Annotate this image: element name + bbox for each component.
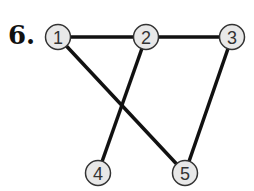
node-2-label: 2 — [141, 28, 151, 48]
node-3-label: 3 — [227, 28, 237, 48]
graph-diagram: 1 2 3 4 5 — [0, 0, 254, 191]
node-5-label: 5 — [180, 164, 190, 184]
node-3: 3 — [220, 25, 245, 50]
edge-3-5 — [185, 37, 232, 173]
node-4-label: 4 — [93, 164, 103, 184]
node-5: 5 — [173, 161, 198, 186]
node-1: 1 — [46, 25, 71, 50]
node-4: 4 — [86, 161, 111, 186]
node-1-label: 1 — [53, 28, 63, 48]
node-2: 2 — [134, 25, 159, 50]
edge-2-4 — [98, 37, 146, 173]
